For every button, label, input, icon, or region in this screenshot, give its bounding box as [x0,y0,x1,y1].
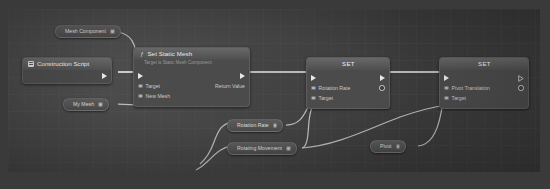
node-construction-script-label: Construction Script [37,60,89,68]
struct-pin-icon [379,85,385,91]
node-rotating-movement-variable[interactable]: Rotating Movement [227,142,297,155]
exec-in-pin-set-pivot-translation[interactable] [444,75,449,81]
exec-arrow-icon [311,75,316,81]
exec-arrow-icon [138,73,143,79]
object-pin-icon[interactable] [110,29,115,34]
input-pin-target[interactable]: Target [444,95,466,101]
exec-in-pin-set-static-mesh[interactable] [138,73,143,79]
node-rotation-rate-variable[interactable]: Rotation Rate [227,119,283,132]
node-set-rotation-rate[interactable]: SET Rotation Rate [306,57,390,109]
exec-out-pin-set-rotation-rate[interactable] [380,75,385,81]
exec-out-pin-construction-script[interactable] [102,73,107,79]
node-set-pivot-translation-header: SET [440,58,528,70]
node-row-target: Target [311,93,385,103]
object-pin-icon [311,96,316,101]
node-set-static-mesh-header: ƒ Set Static Mesh [134,48,249,60]
node-row-exec [311,73,385,83]
data-wire-rotatingmovement-to-set1target [302,105,313,148]
node-set-static-mesh-subtitle: Target is Static Mesh Component [134,60,249,68]
function-icon: ƒ [140,50,144,57]
input-pin-new-mesh[interactable]: New Mesh [138,93,170,99]
struct-pin-icon[interactable] [396,144,401,149]
pin-label-target: Target [452,95,466,101]
exec-out-pin-set-static-mesh[interactable] [240,73,245,79]
node-rotation-rate-label: Rotation Rate [237,120,269,131]
object-pin-icon [444,96,449,101]
pin-label-target: Target [319,95,333,101]
struct-pin-icon[interactable] [273,123,278,128]
node-construction-script[interactable]: Construction Script [22,57,112,84]
exec-in-pin-set-rotation-rate[interactable] [311,75,316,81]
pin-label-rotation-rate: Rotation Rate [319,85,351,91]
node-set-static-mesh[interactable]: ƒ Set Static Mesh Target is Static Mesh … [133,47,250,107]
object-pin-icon [138,94,143,99]
exec-arrow-icon [380,75,385,81]
node-construction-script-body [23,70,111,83]
node-pivot-label: Pivot [380,141,392,152]
struct-pin-icon [444,86,449,91]
input-pin-target[interactable]: Target [311,95,333,101]
node-row-target: Target [444,93,524,103]
node-set-pivot-translation[interactable]: SET Pivot Translation [439,57,529,109]
node-my-mesh-label: My Mesh [73,99,94,110]
object-pin-icon [138,84,143,89]
struct-pin-icon [518,85,524,91]
pin-label-target: Target [146,83,160,89]
object-pin-icon[interactable] [286,146,291,151]
input-pin-pivot-translation[interactable]: Pivot Translation [444,85,490,91]
node-row-target: Target Return Value [138,81,245,91]
node-set-static-mesh-body: Target Return Value New Mesh [134,68,249,106]
output-pin-rotation-rate[interactable] [379,85,385,91]
node-set-rotation-rate-body: Rotation Rate Target [307,70,389,108]
node-construction-script-header: Construction Script [23,58,111,70]
object-pin-icon[interactable] [98,102,103,107]
node-my-mesh[interactable]: My Mesh [63,98,109,111]
node-set-pivot-translation-body: Pivot Translation Target [440,70,528,108]
output-pin-pivot-translation[interactable] [518,85,524,91]
node-pivot-variable[interactable]: Pivot [370,140,406,153]
exec-out-pin-set-pivot-translation[interactable] [518,75,524,82]
pin-label-new-mesh: New Mesh [146,93,171,99]
blueprint-canvas[interactable]: Mesh Component Construction Script My Me… [8,9,540,172]
blueprint-screenshot: Mesh Component Construction Script My Me… [0,0,550,189]
node-mesh-component[interactable]: Mesh Component [55,25,121,38]
script-icon [28,61,34,67]
node-row-exec [444,73,524,83]
input-pin-target[interactable]: Target [138,83,160,89]
exec-arrow-icon [240,73,245,79]
pin-label-pivot-translation: Pivot Translation [452,85,490,91]
node-set-rotation-rate-header: SET [307,58,389,70]
node-row-exec [138,71,245,81]
input-pin-rotation-rate[interactable]: Rotation Rate [311,85,350,91]
exec-arrow-icon [444,75,449,81]
node-row-pivot-translation: Pivot Translation [444,83,524,93]
node-row-rotation-rate: Rotation Rate [311,83,385,93]
exec-arrow-outline-icon [518,75,524,82]
pin-label-return-value: Return Value [215,83,245,89]
node-mesh-component-label: Mesh Component [65,26,106,37]
node-rotating-movement-label: Rotating Movement [237,143,282,154]
node-set-static-mesh-title: Set Static Mesh [147,50,192,57]
node-row-new-mesh: New Mesh [138,91,245,101]
struct-pin-icon [311,86,316,91]
